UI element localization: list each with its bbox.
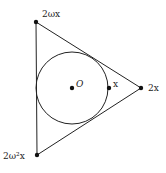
vertex-top-point <box>34 20 38 24</box>
vertex-bottom-label: 2ω²x <box>3 151 25 161</box>
x-point-label: x <box>113 79 118 89</box>
triangle <box>36 22 141 155</box>
vertex-bottom-point <box>35 153 39 157</box>
triangle-incircle-diagram: 2ωx 2x 2ω²x O x <box>0 0 166 173</box>
center-point <box>70 86 74 90</box>
center-label: O <box>76 79 84 89</box>
vertex-top-label: 2ωx <box>42 9 60 19</box>
vertex-right-label: 2x <box>148 83 159 93</box>
vertex-right-point <box>139 86 143 90</box>
x-point <box>107 86 111 90</box>
